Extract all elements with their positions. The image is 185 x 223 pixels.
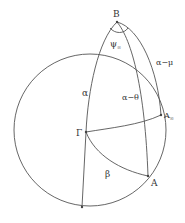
label-a: A (150, 178, 158, 188)
great-circle (14, 54, 166, 206)
point-b (116, 21, 118, 23)
label-alpha-theta: α−θ (122, 93, 139, 102)
label-beta: β (105, 169, 110, 179)
label-gamma: Γ (76, 128, 82, 138)
arc-gamma-a (86, 132, 148, 176)
arc-b-gamma-bottom (82, 22, 117, 207)
arc-gamma-a-inf (86, 115, 161, 132)
point-bottom (81, 206, 83, 208)
point-gamma (85, 131, 87, 133)
label-b: B (113, 9, 120, 19)
point-a (147, 175, 149, 177)
angle-arc-psi (110, 28, 128, 33)
label-alpha-mu: α−μ (156, 58, 173, 67)
label-a-inf: A∞ (163, 111, 174, 121)
spherical-diagram: B ψ∞ α−μ α α−θ A∞ Γ β A (0, 0, 185, 223)
label-psi: ψ∞ (110, 39, 121, 50)
point-a-inf (160, 114, 162, 116)
label-alpha: α (82, 88, 88, 98)
